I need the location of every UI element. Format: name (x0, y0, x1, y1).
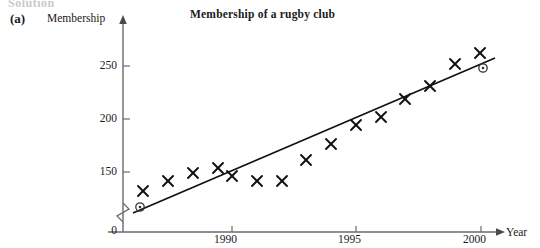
x-tick-marks (232, 226, 481, 232)
y-tick-marks (123, 66, 130, 172)
y-tick-label-200: 200 (83, 112, 117, 124)
y-tick-label-150: 150 (83, 165, 117, 177)
y-axis (119, 15, 127, 232)
mean-point-upper (479, 64, 487, 72)
y-tick-label-250: 250 (83, 59, 117, 71)
data-markers (138, 48, 485, 196)
data-marker-x (475, 48, 485, 58)
x-axis-title: Year (506, 226, 527, 238)
data-marker-x (425, 81, 435, 91)
x-axis (108, 228, 505, 236)
data-marker-x (213, 163, 223, 173)
data-marker-x (227, 171, 237, 181)
data-marker-x (163, 176, 173, 186)
data-marker-x (326, 139, 336, 149)
data-marker-x (252, 176, 262, 186)
data-marker-x (351, 120, 361, 130)
data-marker-x (301, 155, 311, 165)
data-marker-x (450, 59, 460, 69)
data-marker-x (188, 168, 198, 178)
data-marker-x (138, 186, 148, 196)
x-tick-label-1990: 1990 (214, 233, 237, 245)
x-tick-label-2000: 2000 (463, 233, 486, 245)
data-marker-x (376, 112, 386, 122)
scatter-plot (0, 0, 540, 248)
data-marker-x (400, 94, 410, 104)
figure-root: Solution (a) Membership Membership of a … (0, 0, 540, 248)
data-marker-x (277, 176, 287, 186)
x-tick-label-1995: 1995 (338, 233, 361, 245)
y-tick-label-0: 0 (95, 224, 117, 236)
line-of-best-fit (133, 58, 495, 213)
